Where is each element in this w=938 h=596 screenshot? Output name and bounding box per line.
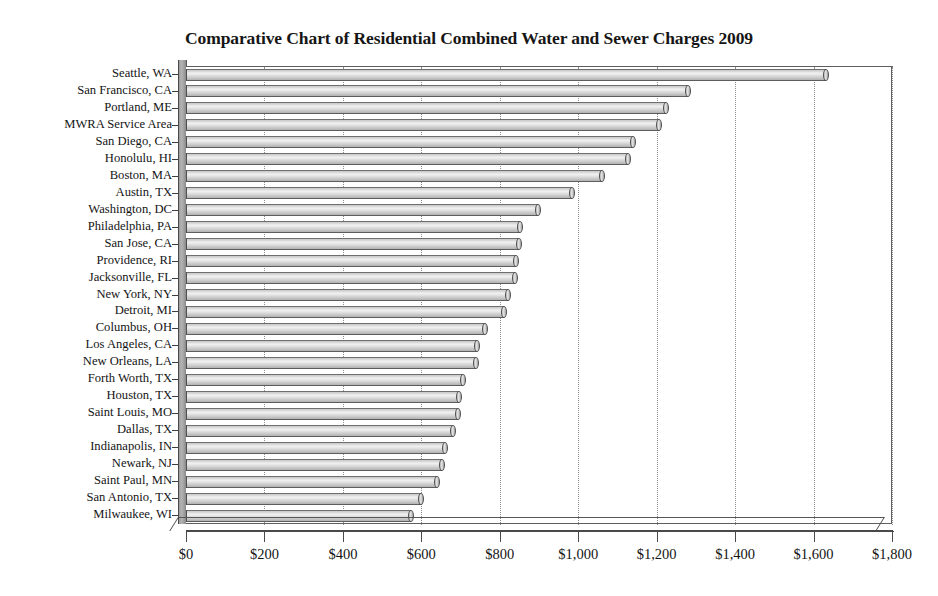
bar <box>186 323 485 335</box>
y-axis-label: Philadelphia, PA <box>0 220 172 233</box>
bar-end-cap <box>474 340 480 352</box>
bar-end-cap <box>460 374 466 386</box>
bar-row <box>186 272 892 290</box>
bar-row <box>186 357 892 375</box>
bar <box>186 136 633 148</box>
y-axis-tick <box>172 430 178 431</box>
bar <box>186 102 666 114</box>
bar <box>186 204 538 216</box>
x-axis-label: $0 <box>141 546 231 563</box>
bar-end-cap <box>685 85 691 97</box>
y-axis-label: San Antonio, TX <box>0 491 172 504</box>
y-axis-tick <box>172 311 178 312</box>
bar-row <box>186 136 892 154</box>
y-axis-tick <box>172 261 178 262</box>
bar <box>186 442 445 454</box>
bar-row <box>186 476 892 494</box>
bar-end-cap <box>513 255 519 267</box>
bar-row <box>186 119 892 137</box>
bar-end-cap <box>418 493 424 505</box>
y-axis-tick <box>172 210 178 211</box>
x-axis-tick <box>421 531 422 542</box>
bar <box>186 374 463 386</box>
y-axis-label: Seattle, WA <box>0 67 172 80</box>
bar-end-cap <box>535 204 541 216</box>
bar <box>186 425 453 437</box>
bar-row <box>186 238 892 256</box>
bar-end-cap <box>625 153 631 165</box>
y-axis-tick <box>172 91 178 92</box>
bar <box>186 187 572 199</box>
bars-layer <box>186 66 892 524</box>
bar <box>186 289 508 301</box>
bar-row <box>186 102 892 120</box>
y-axis-label: Columbus, OH <box>0 321 172 334</box>
y-axis-tick <box>172 295 178 296</box>
bar <box>186 306 504 318</box>
y-axis-tick <box>172 396 178 397</box>
bar-row <box>186 391 892 409</box>
y-axis-label: Providence, RI <box>0 254 172 267</box>
y-axis-label: Indianapolis, IN <box>0 440 172 453</box>
x-axis-label: $1,000 <box>533 546 623 563</box>
x-axis-tick <box>578 531 579 542</box>
bar-row <box>186 204 892 222</box>
bar <box>186 255 516 267</box>
y-axis-label: Milwaukee, WI <box>0 508 172 521</box>
x-axis-tick <box>343 531 344 542</box>
bar-end-cap <box>501 306 507 318</box>
y-axis-tick <box>172 159 178 160</box>
bar <box>186 170 602 182</box>
chart-title: Comparative Chart of Residential Combine… <box>0 28 938 49</box>
y-axis-tick <box>172 278 178 279</box>
x-axis-label: $200 <box>219 546 309 563</box>
gridline-1800 <box>892 67 893 525</box>
y-axis-tick <box>172 515 178 516</box>
bar-end-cap <box>516 238 522 250</box>
y-axis-label: Forth Worth, TX <box>0 372 172 385</box>
bar-end-cap <box>663 102 669 114</box>
x-axis-line <box>186 531 894 532</box>
y-axis-label: Saint Paul, MN <box>0 474 172 487</box>
bar-row <box>186 374 892 392</box>
bar-end-cap <box>630 136 636 148</box>
y-axis-tick <box>172 193 178 194</box>
bar <box>186 69 826 81</box>
x-axis-tick <box>814 531 815 542</box>
bar-end-cap <box>599 170 605 182</box>
y-axis-tick <box>172 413 178 414</box>
x-axis-tick <box>735 531 736 542</box>
y-axis-tick <box>172 379 178 380</box>
y-axis-category-labels: Seattle, WASan Francisco, CAPortland, ME… <box>0 66 172 524</box>
bar-row <box>186 306 892 324</box>
y-axis-tick <box>172 227 178 228</box>
bar-end-cap <box>434 476 440 488</box>
bar-end-cap <box>456 391 462 403</box>
y-axis-label: San Jose, CA <box>0 237 172 250</box>
x-axis-label: $800 <box>455 546 545 563</box>
bar-row <box>186 85 892 103</box>
bar <box>186 221 520 233</box>
bar-end-cap <box>439 459 445 471</box>
bar <box>186 119 659 131</box>
bar <box>186 340 477 352</box>
bar <box>186 272 515 284</box>
y-axis-tick <box>172 481 178 482</box>
bar-row <box>186 408 892 426</box>
x-axis-tick <box>186 531 187 542</box>
bar <box>186 459 442 471</box>
bar-row <box>186 170 892 188</box>
x-axis-tick <box>500 531 501 542</box>
chart-container: Comparative Chart of Residential Combine… <box>0 0 938 596</box>
y-axis-label: Honolulu, HI <box>0 152 172 165</box>
bar-row <box>186 323 892 341</box>
y-axis-label: Portland, ME <box>0 101 172 114</box>
y-axis-label: New Orleans, LA <box>0 355 172 368</box>
y-axis-label: Saint Louis, MO <box>0 406 172 419</box>
bar <box>186 493 421 505</box>
bar-row <box>186 493 892 511</box>
y-axis-label: San Diego, CA <box>0 135 172 148</box>
y-axis-label: Houston, TX <box>0 389 172 402</box>
y-axis-label: Boston, MA <box>0 169 172 182</box>
x-axis-label: $1,400 <box>690 546 780 563</box>
